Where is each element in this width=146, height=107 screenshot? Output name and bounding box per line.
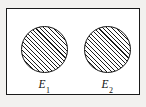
venn-diagram-figure: E1 E2 (0, 0, 146, 107)
event-label-e1-base: E (38, 78, 45, 90)
event-label-e2-subscript: 2 (109, 86, 113, 95)
event-label-e2: E2 (87, 78, 127, 91)
event-label-e2-base: E (101, 78, 108, 90)
event-circle-e1 (21, 26, 68, 73)
event-circle-e2 (84, 26, 131, 73)
event-label-e1: E1 (24, 78, 64, 91)
event-label-e1-subscript: 1 (46, 86, 50, 95)
